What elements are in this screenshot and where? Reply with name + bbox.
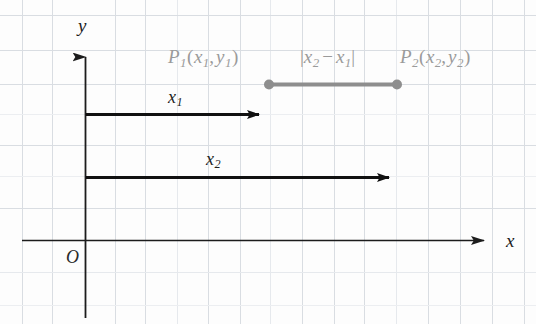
x2-vector-label-sub: 2 [214,157,221,171]
geometry-diagram: y x O x1 x2 P1(x1,y1) |x2−x1| P2(x2,y2) [0,0,536,324]
p1-subscript: 1 [180,55,187,70]
distance-term1: x [304,46,312,67]
x1-vector-label: x1 [168,88,183,109]
y-axis-label: y [78,16,86,35]
p1-point-label: P1(x1,y1) [168,47,239,70]
segment-endpoint-p1 [264,80,274,90]
origin-label: O [66,248,79,266]
p1-open-paren: ( [187,46,194,67]
distance-close-bar: | [351,46,355,67]
segment-endpoint-p2 [392,80,402,90]
p1-close-paren: ) [231,46,238,67]
p2-open-paren: ( [419,46,426,67]
x1-vector-label-sub: 1 [176,95,183,109]
p2-point-label: P2(x2,y2) [400,47,471,70]
x2-vector-label: x2 [206,150,221,171]
distance-label: |x2−x1| [300,47,355,70]
distance-minus: − [319,46,336,67]
x2-vector-label-base: x [206,149,214,169]
x-axis-label: x [506,231,514,250]
x1-vector-label-base: x [168,87,176,107]
p2-subscript: 2 [412,55,419,70]
p2-close-paren: ) [463,46,470,67]
p2-prefix: P [400,46,412,67]
p1-prefix: P [168,46,180,67]
